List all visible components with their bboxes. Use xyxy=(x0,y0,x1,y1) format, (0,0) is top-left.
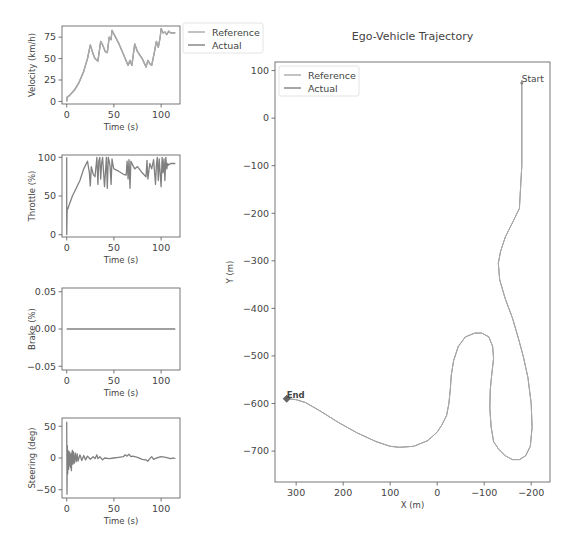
y-tick-label: −400 xyxy=(243,303,269,314)
y-tick-label: 100 xyxy=(251,65,269,76)
y-tick-label: 0 xyxy=(50,96,56,107)
series-actual xyxy=(289,80,532,460)
y-axis-label: Throttle (%) xyxy=(27,171,37,223)
axes-frame xyxy=(275,62,550,482)
x-tick-label: 0 xyxy=(64,109,70,120)
figure: 0501000255075Time (s)Velocity (km/h)Refe… xyxy=(0,0,575,546)
x-tick-label: 200 xyxy=(334,487,352,498)
chart-title: Ego-Vehicle Trajectory xyxy=(352,30,474,43)
x-tick-label: 300 xyxy=(287,487,305,498)
y-tick-label: 50 xyxy=(44,190,56,201)
x-tick-label: 0 xyxy=(64,375,70,386)
x-tick-label: 0 xyxy=(64,503,70,514)
x-axis-label: Time (s) xyxy=(103,122,139,132)
series-actual xyxy=(67,422,176,494)
y-tick-label: 0.05 xyxy=(35,286,56,297)
y-tick-label: 50 xyxy=(44,421,56,432)
y-tick-label: −600 xyxy=(243,398,269,409)
y-tick-label: −50 xyxy=(36,484,56,495)
x-tick-label: 50 xyxy=(108,109,120,120)
legend-label-reference: Reference xyxy=(308,70,356,81)
y-tick-label: 100 xyxy=(38,152,56,163)
legend-label-actual: Actual xyxy=(212,40,242,51)
x-axis-label: Time (s) xyxy=(103,388,139,398)
y-tick-label: −200 xyxy=(243,208,269,219)
x-tick-label: 100 xyxy=(152,242,170,253)
y-axis-label: Velocity (km/h) xyxy=(27,33,37,97)
steering-plot: 050100−50050Time (s)Steering (deg) xyxy=(27,418,180,526)
x-tick-label: 0 xyxy=(434,487,440,498)
series-actual xyxy=(67,157,176,234)
y-tick-label: 0 xyxy=(50,229,56,240)
y-tick-label: 0 xyxy=(263,112,269,123)
y-tick-label: −300 xyxy=(243,255,269,266)
x-tick-label: 100 xyxy=(152,109,170,120)
x-tick-label: −100 xyxy=(471,487,497,498)
axes-frame xyxy=(62,26,180,104)
x-tick-label: 100 xyxy=(152,375,170,386)
x-tick-label: 0 xyxy=(64,242,70,253)
y-tick-label: −700 xyxy=(243,445,269,456)
x-tick-label: 100 xyxy=(381,487,399,498)
end-label: End xyxy=(287,390,305,400)
y-tick-label: −100 xyxy=(243,160,269,171)
throttle-plot: 050100050100Time (s)Throttle (%) xyxy=(27,152,180,265)
brake-plot: 050100−0.050.000.05Time (s)Brake (%) xyxy=(27,286,180,398)
x-axis-label: Time (s) xyxy=(103,516,139,526)
series-actual xyxy=(67,29,176,102)
start-label: Start xyxy=(522,74,544,84)
series-reference xyxy=(67,29,176,102)
x-tick-label: −200 xyxy=(518,487,544,498)
x-axis-label: Time (s) xyxy=(103,255,139,265)
y-axis-label: Steering (deg) xyxy=(27,427,37,488)
legend-label-reference: Reference xyxy=(212,27,260,38)
y-axis-label: Brake (%) xyxy=(27,308,37,350)
y-tick-label: −0.05 xyxy=(27,361,56,372)
x-tick-label: 50 xyxy=(108,375,120,386)
x-tick-label: 50 xyxy=(108,242,120,253)
y-tick-label: −500 xyxy=(243,350,269,361)
trajectory-plot: 3002001000−100−2001000−100−200−300−400−5… xyxy=(225,30,550,510)
y-tick-label: 50 xyxy=(44,53,56,64)
y-tick-label: 75 xyxy=(44,31,56,42)
legend: ReferenceActual xyxy=(183,23,263,53)
x-tick-label: 100 xyxy=(152,503,170,514)
axes-frame xyxy=(62,418,180,498)
x-axis-label: X (m) xyxy=(401,500,424,510)
y-tick-label: 25 xyxy=(44,74,56,85)
legend: ReferenceActual xyxy=(279,66,359,96)
legend-label-actual: Actual xyxy=(308,83,338,94)
series-reference xyxy=(289,80,532,460)
x-tick-label: 50 xyxy=(108,503,120,514)
y-tick-label: 0 xyxy=(50,452,56,463)
velocity-plot: 0501000255075Time (s)Velocity (km/h)Refe… xyxy=(27,23,263,132)
y-tick-label: 0.00 xyxy=(35,323,56,334)
y-axis-label: Y (m) xyxy=(225,261,235,285)
